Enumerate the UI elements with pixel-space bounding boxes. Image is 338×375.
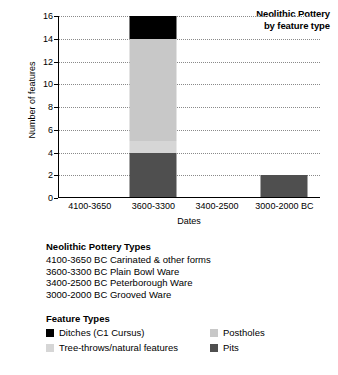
legend-swatch-icon <box>46 329 54 337</box>
legend-items: Ditches (C1 Cursus)PostholesTree-throws/… <box>46 327 328 353</box>
pottery-types-note: Neolithic Pottery Types 4100-3650 BC Car… <box>46 241 306 300</box>
bar-segment[interactable] <box>130 153 177 199</box>
pottery-type-line: 4100-3650 BC Carinated & other forms <box>46 254 306 266</box>
legend-item[interactable]: Postholes <box>210 327 328 338</box>
plot-region: 0246810121416 <box>58 16 320 198</box>
legend-item[interactable]: Tree-throws/natural features <box>46 342 210 353</box>
legend-item[interactable]: Ditches (C1 Cursus) <box>46 327 210 338</box>
legend-item-label: Ditches (C1 Cursus) <box>59 327 145 338</box>
x-axis-line <box>58 197 320 198</box>
bar-column <box>58 16 122 198</box>
y-axis-line <box>58 16 59 198</box>
legend-title: Feature Types <box>46 313 328 324</box>
legend-item-label: Pits <box>223 342 239 353</box>
legend-item-label: Tree-throws/natural features <box>59 342 178 353</box>
stacked-bar[interactable] <box>261 175 308 198</box>
legend-item[interactable]: Pits <box>210 342 328 353</box>
stacked-bar[interactable] <box>130 16 177 198</box>
pottery-type-line: 3600-3300 BC Plain Bowl Ware <box>46 266 306 278</box>
bar-column <box>249 16 320 198</box>
y-axis-label: Number of features <box>27 40 37 160</box>
pottery-type-line: 3400-2500 BC Peterborough Ware <box>46 277 306 289</box>
bar-column <box>185 16 249 198</box>
legend-swatch-icon <box>46 344 54 352</box>
x-axis-tick-label: 4100-3650 <box>58 201 122 211</box>
legend-item-label: Postholes <box>223 327 265 338</box>
x-axis-tick-label: 3400-2500 <box>185 201 249 211</box>
x-axis-tick-label: 3000-2000 BC <box>249 201 320 211</box>
bar-segment[interactable] <box>261 175 308 198</box>
x-axis-tick-labels: 4100-36503600-33003400-25003000-2000 BC <box>58 201 320 211</box>
bar-column <box>122 16 186 198</box>
x-axis-label: Dates <box>58 216 320 226</box>
y-axis-tick-mark <box>54 198 58 199</box>
bar-segment[interactable] <box>130 16 177 39</box>
legend-swatch-icon <box>210 344 218 352</box>
neolithic-pottery-figure: Neolithic Pottery by feature type Number… <box>0 0 338 375</box>
legend: Feature Types Ditches (C1 Cursus)Posthol… <box>46 313 328 353</box>
bar-segment[interactable] <box>130 39 177 141</box>
bar-series-container <box>58 16 320 198</box>
pottery-type-line: 3000-2000 BC Grooved Ware <box>46 289 306 301</box>
bar-segment[interactable] <box>130 141 177 152</box>
legend-swatch-icon <box>210 329 218 337</box>
chart-area: Neolithic Pottery by feature type Number… <box>0 0 338 232</box>
x-axis-tick-label: 3600-3300 <box>122 201 186 211</box>
pottery-types-title: Neolithic Pottery Types <box>46 241 306 252</box>
pottery-types-list: 4100-3650 BC Carinated & other forms3600… <box>46 254 306 300</box>
